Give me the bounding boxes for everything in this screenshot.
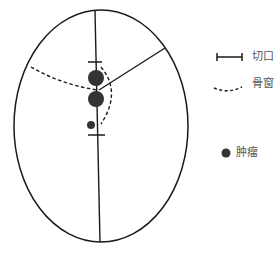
skull-outline bbox=[14, 10, 188, 242]
coronal-suture bbox=[99, 48, 165, 90]
tumor bbox=[88, 70, 104, 86]
tumor bbox=[87, 121, 95, 129]
bone-window-segment bbox=[31, 67, 97, 90]
legend-tumor-symbol bbox=[222, 149, 231, 158]
legend-incision-symbol bbox=[217, 53, 242, 61]
legend-label-bone-window: 骨窗 bbox=[252, 78, 274, 90]
tumor-group bbox=[87, 70, 104, 129]
legend-label-incision: 切口 bbox=[252, 51, 274, 63]
midline-suture bbox=[95, 11, 100, 242]
legend-label-tumor: 肿瘤 bbox=[236, 147, 258, 159]
tumor bbox=[88, 91, 104, 107]
skull-diagram bbox=[0, 0, 280, 258]
legend-bone-window-symbol bbox=[214, 87, 242, 91]
